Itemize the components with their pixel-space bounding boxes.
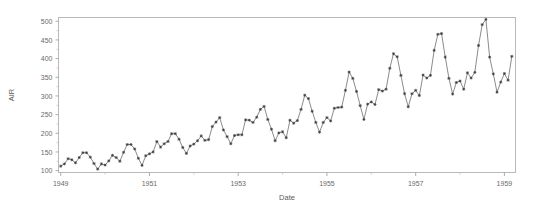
data-point — [418, 94, 421, 97]
x-tick-label: 1949 — [53, 180, 69, 187]
data-point — [325, 116, 328, 119]
data-point — [377, 88, 380, 91]
data-point — [155, 140, 158, 143]
data-point — [144, 154, 147, 157]
data-point — [288, 119, 291, 122]
data-point — [96, 168, 99, 171]
data-point — [492, 72, 495, 75]
data-point — [488, 56, 491, 59]
data-point — [440, 32, 443, 35]
data-point — [484, 18, 487, 21]
data-point — [237, 133, 240, 136]
data-point — [222, 128, 225, 131]
data-point — [436, 33, 439, 36]
data-point — [392, 52, 395, 55]
data-point — [244, 118, 247, 121]
data-point — [240, 133, 243, 136]
y-tick-label: 450 — [41, 37, 53, 44]
data-point — [152, 150, 155, 153]
y-axis-label: AIR — [7, 88, 16, 101]
data-point — [462, 88, 465, 91]
data-point — [362, 118, 365, 121]
data-point — [444, 56, 447, 59]
data-point — [473, 71, 476, 74]
data-point — [407, 105, 410, 108]
data-point — [381, 90, 384, 93]
data-point — [233, 134, 236, 137]
x-tick-label: 1951 — [142, 180, 158, 187]
y-tick-label: 300 — [41, 93, 53, 100]
data-point — [207, 138, 210, 141]
data-point — [296, 119, 299, 122]
data-point — [510, 55, 513, 58]
data-point — [251, 121, 254, 124]
data-point — [196, 139, 199, 142]
data-point — [129, 143, 132, 146]
data-point — [189, 144, 192, 147]
data-point — [459, 79, 462, 82]
data-point — [78, 156, 81, 159]
data-point — [104, 164, 107, 167]
data-point — [422, 74, 425, 77]
data-point — [59, 165, 62, 168]
data-point — [115, 156, 118, 159]
data-point — [181, 146, 184, 149]
data-point — [348, 71, 351, 74]
data-point — [218, 116, 221, 119]
data-point — [399, 74, 402, 77]
data-point — [248, 119, 251, 122]
data-point — [303, 94, 306, 97]
chart-background — [0, 0, 540, 208]
data-point — [259, 108, 262, 111]
data-point — [277, 131, 280, 134]
data-point — [81, 151, 84, 154]
data-point — [137, 157, 140, 160]
y-tick-label: 400 — [41, 55, 53, 62]
air-passengers-line-chart: 100150200250300350400450500 194919511953… — [0, 0, 540, 208]
data-point — [351, 77, 354, 80]
data-point — [226, 135, 229, 138]
data-point — [163, 142, 166, 145]
data-point — [507, 79, 510, 82]
data-point — [495, 91, 498, 94]
data-point — [141, 164, 144, 167]
data-point — [285, 136, 288, 139]
data-point — [455, 81, 458, 84]
data-point — [118, 160, 121, 163]
y-tick-label: 350 — [41, 74, 53, 81]
data-point — [126, 143, 129, 146]
data-point — [314, 121, 317, 124]
data-point — [292, 122, 295, 125]
data-point — [433, 49, 436, 52]
data-point — [185, 152, 188, 155]
data-point — [503, 72, 506, 75]
data-point — [85, 151, 88, 154]
data-point — [70, 158, 73, 161]
data-point — [396, 55, 399, 58]
data-point — [174, 132, 177, 135]
x-tick-label: 1953 — [230, 180, 246, 187]
data-point — [373, 103, 376, 106]
data-point — [229, 142, 232, 145]
data-point — [192, 143, 195, 146]
data-point — [370, 100, 373, 103]
data-point — [92, 162, 95, 165]
data-point — [359, 104, 362, 107]
data-point — [499, 81, 502, 84]
data-point — [451, 93, 454, 96]
data-point — [344, 89, 347, 92]
data-point — [270, 128, 273, 131]
data-point — [111, 154, 114, 157]
x-tick-label: 1957 — [408, 180, 424, 187]
data-point — [255, 116, 258, 119]
data-point — [89, 156, 92, 159]
data-point — [203, 139, 206, 142]
x-axis-label: Date — [279, 193, 295, 202]
data-point — [166, 140, 169, 143]
data-point — [159, 146, 162, 149]
data-point — [388, 67, 391, 70]
data-point — [481, 23, 484, 26]
data-point — [429, 74, 432, 77]
data-point — [122, 151, 125, 154]
data-point — [470, 77, 473, 80]
